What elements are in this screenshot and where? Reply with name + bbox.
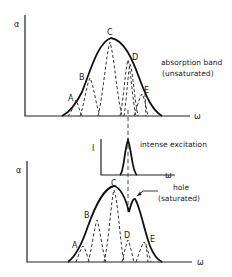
bottom-peak-label-d: D bbox=[124, 231, 130, 240]
bottom-peak-label-b: B bbox=[84, 211, 90, 220]
top-subband-c bbox=[98, 42, 122, 116]
top-subband-d bbox=[120, 60, 136, 116]
top-panel-title-line1: absorption band bbox=[161, 58, 223, 67]
excitation-panel: I ω intense excitation bbox=[92, 139, 207, 180]
hole-arrow-icon bbox=[137, 192, 142, 197]
top-absorption-envelope bbox=[62, 38, 162, 116]
top-peak-label-e: E bbox=[144, 86, 149, 95]
top-subband-b bbox=[80, 78, 100, 116]
top-subband-e-line bbox=[145, 94, 146, 116]
bottom-peak-label-e: E bbox=[150, 235, 155, 244]
excitation-y-axis-label: I bbox=[92, 144, 94, 153]
bottom-panel-saturated-absorption: α ω A B C D E hole (saturated) bbox=[16, 161, 204, 267]
excitation-title: intense excitation bbox=[140, 140, 207, 149]
top-peak-label-a: A bbox=[68, 94, 74, 103]
bottom-y-axis-label: α bbox=[16, 166, 21, 175]
hole-burning-diagram: α ω A B C D E absorption band (unsaturat… bbox=[0, 0, 232, 277]
bottom-subband-c bbox=[104, 190, 124, 262]
hole-label-line2: (saturated) bbox=[158, 194, 200, 203]
bottom-absorption-envelope-with-hole bbox=[68, 186, 162, 262]
top-peak-label-b: B bbox=[79, 73, 85, 82]
bottom-peak-label-c: C bbox=[111, 179, 117, 188]
top-peak-label-d: D bbox=[132, 53, 138, 62]
excitation-x-axis-label: ω bbox=[165, 171, 172, 180]
bottom-subband-b bbox=[88, 220, 106, 262]
top-y-axis-label: α bbox=[14, 20, 19, 29]
bottom-x-axis-label: ω bbox=[197, 258, 204, 267]
bottom-peak-label-a: A bbox=[72, 241, 78, 250]
top-panel-unsaturated-absorption: α ω A B C D E absorption band (unsaturat… bbox=[14, 15, 223, 121]
top-x-axis-label: ω bbox=[194, 112, 201, 121]
hole-label-line1: hole bbox=[173, 183, 189, 192]
top-panel-title-line2: (unsaturated) bbox=[162, 69, 214, 78]
excitation-laser-line bbox=[120, 140, 137, 175]
top-peak-label-c: C bbox=[107, 28, 113, 37]
